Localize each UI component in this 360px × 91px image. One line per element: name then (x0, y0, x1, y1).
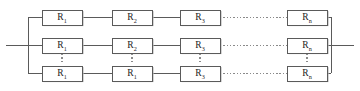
circuit-diagram: R1R2R3RnR1R2R3RnR1R1R3Rn (0, 0, 360, 91)
resistor-rn: Rn (288, 38, 329, 54)
resistor-r1: R1 (43, 66, 84, 82)
circuit-canvas: R1R2R3RnR1R2R3RnR1R1R3Rn (0, 0, 360, 91)
resistor-layer: R1R2R3RnR1R2R3RnR1R1R3Rn (43, 10, 329, 82)
resistor-rn: Rn (288, 10, 329, 26)
resistor-r1: R1 (43, 38, 84, 54)
resistor-r3: R3 (181, 10, 222, 26)
resistor-r1: R1 (113, 66, 154, 82)
resistor-r3: R3 (181, 66, 222, 82)
resistor-rn: Rn (288, 66, 329, 82)
resistor-r2: R2 (113, 38, 154, 54)
resistor-r3: R3 (181, 38, 222, 54)
resistor-r2: R2 (113, 10, 154, 26)
resistor-r1: R1 (43, 10, 84, 26)
